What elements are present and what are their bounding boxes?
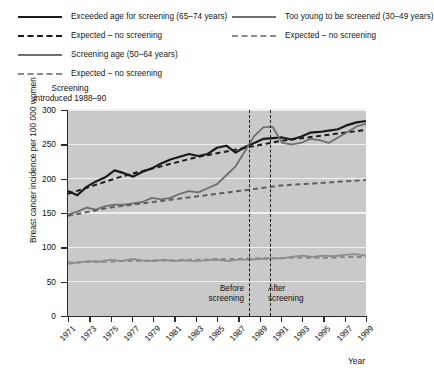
x-tick-label: 1999: [356, 324, 375, 343]
screening-intro-line1: Screening: [0, 84, 140, 94]
x-tick-mark: [217, 317, 218, 322]
before-line1: Before: [192, 284, 244, 294]
after-line1: After: [268, 284, 328, 294]
x-tick-label: 1993: [292, 324, 311, 343]
x-tick-mark: [260, 317, 261, 322]
series-line-3: [68, 180, 366, 216]
y-tick-mark: [61, 110, 67, 111]
screening-vline-1988: [249, 110, 250, 316]
x-axis-title: Year: [348, 356, 365, 366]
y-tick-mark: [61, 316, 67, 317]
x-tick-mark: [174, 317, 175, 322]
screening-intro-line2: introduced 1988–90: [0, 94, 140, 104]
x-tick-mark: [323, 317, 324, 322]
y-tick-mark: [61, 213, 67, 214]
y-tick-mark: [61, 282, 67, 283]
x-tick-mark: [366, 317, 367, 322]
y-tick-mark: [61, 144, 67, 145]
x-tick-label: 1985: [207, 324, 226, 343]
before-line2: screening: [192, 294, 244, 304]
x-tick-label: 1979: [143, 324, 162, 343]
x-tick-mark: [111, 317, 112, 322]
y-tick-label: 50: [16, 277, 56, 287]
x-tick-mark: [302, 317, 303, 322]
after-screening-annotation: After screening: [268, 284, 328, 305]
x-tick-label: 1997: [335, 324, 354, 343]
y-axis-line: [67, 110, 68, 317]
x-tick-mark: [345, 317, 346, 322]
x-tick-label: 1983: [186, 324, 205, 343]
x-tick-label: 1991: [271, 324, 290, 343]
series-line-2: [68, 124, 366, 215]
x-tick-mark: [132, 317, 133, 322]
x-tick-label: 1987: [228, 324, 247, 343]
x-tick-mark: [153, 317, 154, 322]
x-tick-label: 1971: [58, 324, 77, 343]
screening-introduced-annotation: Screening introduced 1988–90: [0, 84, 140, 105]
x-tick-label: 1975: [101, 324, 120, 343]
x-tick-mark: [281, 317, 282, 322]
y-tick-mark: [61, 179, 67, 180]
x-tick-mark: [89, 317, 90, 322]
x-tick-label: 1973: [79, 324, 98, 343]
x-tick-label: 1981: [165, 324, 184, 343]
x-tick-label: 1995: [314, 324, 333, 343]
y-axis-title: Breast cancer incidence per 100 000 wome…: [28, 65, 38, 255]
before-screening-annotation: Before screening: [192, 284, 244, 305]
after-line2: screening: [268, 294, 328, 304]
y-tick-label: 0: [16, 311, 56, 321]
x-tick-label: 1977: [122, 324, 141, 343]
y-tick-mark: [61, 247, 67, 248]
x-tick-mark: [196, 317, 197, 322]
x-tick-mark: [68, 317, 69, 322]
x-tick-label: 1989: [250, 324, 269, 343]
x-tick-mark: [238, 317, 239, 322]
